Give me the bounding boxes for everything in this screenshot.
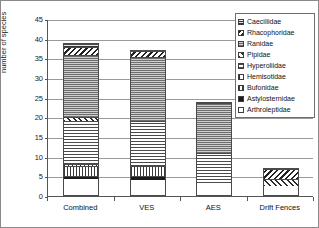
x-category-label: Drift Fences [247,203,314,212]
legend-swatch-icon [238,107,244,113]
legend-item-hemisotidae[interactable]: Hemisotidae [238,71,312,82]
bar-combined [63,43,99,196]
legend-label: Bufonidae [247,84,279,92]
y-tick-mark [45,59,48,60]
chart-figure: number of species CaeciliidaeRhacophorid… [0,0,319,228]
legend-label: Hyperoliidae [247,62,286,70]
legend-item-arthroleptidae[interactable]: Arthroleptidae [238,104,312,115]
y-tick-label: 10 [21,154,43,162]
legend-swatch-icon [238,52,244,58]
y-tick-mark [45,20,48,21]
legend-item-caeciliidae[interactable]: Caeciliidae [238,16,312,27]
y-tick-label: 20 [21,114,43,122]
bar-segment-ranidae [197,103,231,153]
legend-swatch-icon [238,19,244,25]
legend-label: Hemisotidae [247,73,286,81]
legend-swatch-icon [238,63,244,69]
legend-item-hyperoliidae[interactable]: Hyperoliidae [238,60,312,71]
y-tick-label: 15 [21,134,43,142]
y-tick-label: 30 [21,75,43,83]
legend-item-ranidae[interactable]: Ranidae [238,38,312,49]
legend-label: Rhacophoridae [247,29,294,37]
legend-label: Arthroleptidae [247,106,291,114]
legend-item-astylosternidae[interactable]: Astylosternidae [238,93,312,104]
y-tick-mark [45,99,48,100]
x-category-label: Combined [47,203,114,212]
legend-swatch-icon [238,74,244,80]
bar-segment-ranidae [131,57,165,121]
bar-segment-hyperoliidae [197,153,231,184]
y-tick-mark [45,138,48,139]
x-tick-mark [47,197,48,201]
y-tick-mark [45,40,48,41]
legend-item-pipidae[interactable]: Pipidae [238,49,312,60]
y-tick-label: 25 [21,95,43,103]
bar-segment-ranidae [64,55,98,117]
bar-segment-pipidae [264,179,298,186]
y-tick-mark [45,177,48,178]
x-tick-mark [114,197,115,201]
y-tick-label: 40 [21,36,43,44]
x-category-label: AES [180,203,247,212]
bar-segment-hyperoliidae [131,121,165,166]
x-tick-mark [247,197,248,201]
bar-aes [196,102,232,196]
bar-segment-bufonidae [64,166,98,176]
legend-label: Pipidae [247,51,270,59]
legend-item-rhacophoridae[interactable]: Rhacophoridae [238,27,312,38]
x-tick-mark [180,197,181,201]
y-tick-label: 5 [21,173,43,181]
legend-swatch-icon [238,96,244,102]
y-tick-label: 45 [21,16,43,24]
bar-segment-rhacophoridae [264,169,298,178]
bar-segment-rhacophoridae [64,47,98,55]
legend-item-bufonidae[interactable]: Bufonidae [238,82,312,93]
legend-label: Astylosternidae [247,95,295,103]
y-tick-label: 35 [21,55,43,63]
legend-label: Ranidae [247,40,273,48]
chart-legend: CaeciliidaeRhacophoridaeRanidaePipidaeHy… [235,13,315,118]
legend-swatch-icon [238,30,244,36]
bar-segment-hyperoliidae [64,121,98,164]
bar-drift-fences [263,168,299,196]
x-tick-mark [313,197,314,201]
bar-ves [130,50,166,196]
x-category-label: VES [114,203,181,212]
bar-segment-arthroleptidae [64,179,98,195]
y-axis-label: number of species [0,12,8,73]
y-tick-mark [45,158,48,159]
bar-segment-arthroleptidae [131,180,165,196]
y-tick-mark [45,79,48,80]
legend-swatch-icon [238,85,244,91]
bar-segment-bufonidae [131,166,165,176]
y-tick-mark [45,118,48,119]
y-tick-label: 0 [21,193,43,201]
legend-label: Caeciliidae [247,18,281,26]
bar-segment-arthroleptidae [197,183,231,195]
legend-swatch-icon [238,41,244,47]
bar-segment-arthroleptidae [264,186,298,195]
